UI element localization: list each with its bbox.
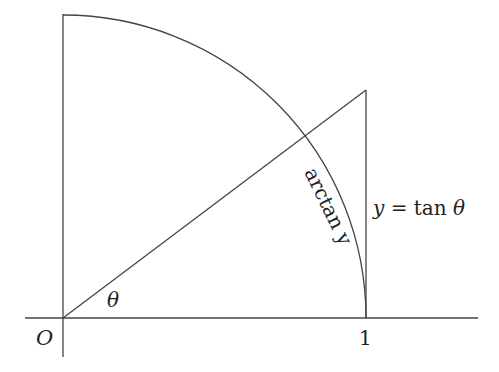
theta-label: θ: [107, 288, 119, 312]
diagram-canvas: O θ 1 y = tan θ arctan y: [0, 0, 499, 372]
tangent-eq-y: y: [372, 196, 385, 220]
arc-label-text: arctan y: [300, 164, 358, 250]
tangent-eq-theta: θ: [453, 196, 465, 220]
origin-label: O: [36, 326, 53, 350]
arc-label: arctan y: [300, 164, 358, 250]
tangent-eq-mid: = tan: [384, 196, 453, 220]
unit-label: 1: [359, 326, 372, 350]
tangent-equation: y = tan θ: [372, 196, 465, 220]
